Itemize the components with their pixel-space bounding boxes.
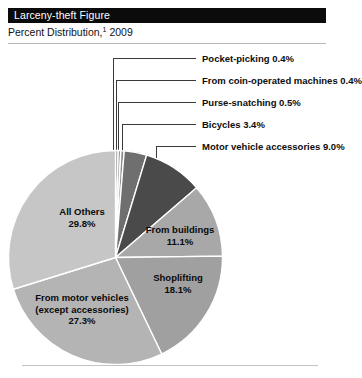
pie-slice-group [9,150,223,364]
pie-label-from-motor-vehicles-qualifier: (except accessories) [20,304,144,316]
pie-label-shoplifting-name: Shoplifting [133,272,223,284]
pie-label-from-motor-vehicles: From motor vehicles (except accessories)… [20,292,144,327]
pie-label-from-motor-vehicles-name: From motor vehicles [20,292,144,304]
pie-label-all-others: All Others 29.8% [34,206,130,229]
pie-label-all-others-name: All Others [34,206,130,218]
pie-label-shoplifting-value: 18.1% [133,284,223,296]
pie-label-shoplifting: Shoplifting 18.1% [133,272,223,295]
pie-label-from-motor-vehicles-value: 27.3% [20,315,144,327]
pie-label-from-buildings-value: 11.1% [132,236,228,248]
pie-label-all-others-value: 29.8% [34,218,130,230]
footer-divider [22,365,318,366]
pie-label-from-buildings: From buildings 11.1% [132,224,228,247]
pie-label-from-buildings-name: From buildings [132,224,228,236]
